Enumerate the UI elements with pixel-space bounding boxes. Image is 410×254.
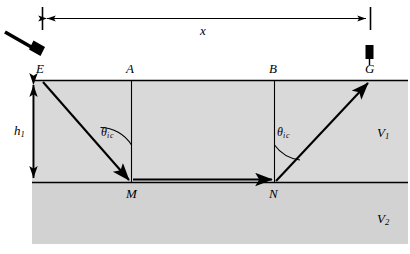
depth-label-h1: h1: [14, 124, 25, 139]
diagram-canvas: [0, 0, 410, 254]
theta-subscript-c-M: c: [109, 131, 114, 140]
surface-point-label-E: E: [36, 62, 44, 75]
surface-point-label-G: G: [365, 62, 374, 75]
lower-layer-fill: [32, 183, 408, 244]
interface-point-label-N: N: [269, 187, 278, 200]
velocity-label-V2: V2: [377, 212, 389, 227]
hammer-icon: [5, 32, 45, 56]
surface-point-label-A: A: [126, 62, 134, 75]
velocity-label-V1: V1: [377, 126, 389, 141]
velocity-label-V2-subscript: 2: [385, 217, 389, 227]
dimension-label-x: x: [200, 24, 206, 37]
velocity-label-V1-subscript: 1: [385, 131, 389, 141]
upper-layer-fill: [32, 80, 408, 182]
refraction-diagram: x E A B G M N h1 θic θic V1 V2: [0, 0, 410, 254]
theta-subscript-c-N: c: [285, 131, 290, 140]
velocity-label-V2-base: V: [377, 211, 385, 226]
depth-label-subscript: 1: [21, 129, 25, 139]
surface-point-label-B: B: [269, 62, 277, 75]
critical-angle-label-N: θic: [277, 126, 290, 140]
interface-point-label-M: M: [126, 187, 137, 200]
velocity-label-V1-base: V: [377, 125, 385, 140]
critical-angle-label-M: θic: [101, 126, 114, 140]
